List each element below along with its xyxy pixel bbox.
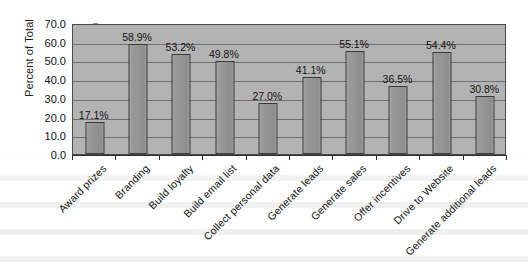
bar-slot xyxy=(73,25,116,154)
bar-slot xyxy=(290,25,333,154)
bar-slot xyxy=(247,25,290,154)
plot-area xyxy=(72,24,506,155)
y-axis-tick-label: 0.0 xyxy=(26,149,66,161)
bar-slot xyxy=(203,25,246,154)
y-axis-tick-label: 50.0 xyxy=(26,55,66,67)
bar-slot xyxy=(333,25,376,154)
y-axis-tick-label: 40.0 xyxy=(26,74,66,86)
y-axis-tick-label: 30.0 xyxy=(26,93,66,105)
bar[interactable] xyxy=(302,77,321,154)
bar[interactable] xyxy=(85,122,104,154)
bar[interactable] xyxy=(259,103,278,154)
x-axis-tick-mark xyxy=(115,155,116,160)
bar-slot xyxy=(377,25,420,154)
bar[interactable] xyxy=(129,44,148,154)
x-axis-tick-mark xyxy=(419,155,420,160)
bar-chart-figure: Percent of Total 70.060.050.040.030.020.… xyxy=(0,0,528,279)
y-axis-tick-labels: 70.060.050.040.030.020.010.00.0 xyxy=(26,0,66,279)
bar[interactable] xyxy=(172,54,191,154)
x-axis-tick-mark xyxy=(463,155,464,160)
x-axis-tick-mark xyxy=(506,155,507,160)
x-axis-category-labels: Award prizesBrandingBuild loyaltyBuild e… xyxy=(72,162,528,279)
x-axis-category-label: Collect personal data xyxy=(201,162,281,242)
x-axis-tick-mark xyxy=(332,155,333,160)
x-axis-tick-mark xyxy=(202,155,203,160)
bar-slot xyxy=(116,25,159,154)
y-axis-tick-label: 60.0 xyxy=(26,37,66,49)
bar[interactable] xyxy=(432,52,451,154)
x-axis-tick-mark xyxy=(246,155,247,160)
x-axis-tick-mark xyxy=(72,155,73,160)
x-axis-category-label: Branding xyxy=(113,162,152,201)
bar-series xyxy=(73,25,505,154)
bar[interactable] xyxy=(215,61,234,154)
y-axis-tick-label: 70.0 xyxy=(26,18,66,30)
bar-slot xyxy=(464,25,506,154)
x-axis-tick-mark xyxy=(159,155,160,160)
x-axis-tick-mark xyxy=(289,155,290,160)
bar[interactable] xyxy=(389,86,408,154)
y-axis-tick-label: 20.0 xyxy=(26,112,66,124)
bar-slot xyxy=(420,25,463,154)
x-axis-category-label: Generate additional leads xyxy=(403,162,499,258)
bar[interactable] xyxy=(476,96,495,154)
y-axis-tick-label: 10.0 xyxy=(26,130,66,142)
bar[interactable] xyxy=(346,51,365,154)
x-axis-tick-mark xyxy=(376,155,377,160)
bar-slot xyxy=(160,25,203,154)
